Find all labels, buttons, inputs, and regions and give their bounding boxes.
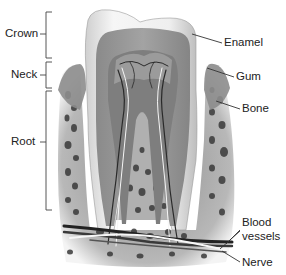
label-nerve: Nerve: [242, 256, 273, 269]
label-enamel: Enamel: [224, 36, 263, 49]
label-gum: Gum: [236, 70, 261, 83]
label-bone: Bone: [242, 102, 269, 115]
label-neck: Neck: [11, 68, 37, 81]
left-brackets: [40, 12, 52, 210]
enamel-leader: [192, 34, 222, 43]
root-bracket: [40, 91, 52, 210]
crown-bracket: [40, 12, 52, 58]
label-crown: Crown: [5, 27, 38, 40]
label-root: Root: [11, 135, 35, 148]
label-blood-vessels-line2: vessels: [242, 230, 280, 243]
label-blood-vessels-line1: Blood: [242, 216, 271, 229]
neck-bracket: [40, 62, 52, 88]
